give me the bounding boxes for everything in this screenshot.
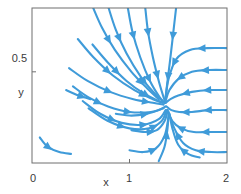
- y-axis-label: y: [18, 86, 24, 98]
- phase-portrait-figure: 0 1 2 0.5 x y: [0, 0, 241, 194]
- x-tick-label-1: 1: [126, 172, 132, 184]
- x-tick-label-0: 0: [30, 172, 36, 184]
- x-axis-label: x: [103, 176, 109, 188]
- y-tick-label-0: 0.5: [12, 52, 27, 64]
- figure-background: [0, 0, 241, 194]
- x-tick-label-2: 2: [223, 172, 229, 184]
